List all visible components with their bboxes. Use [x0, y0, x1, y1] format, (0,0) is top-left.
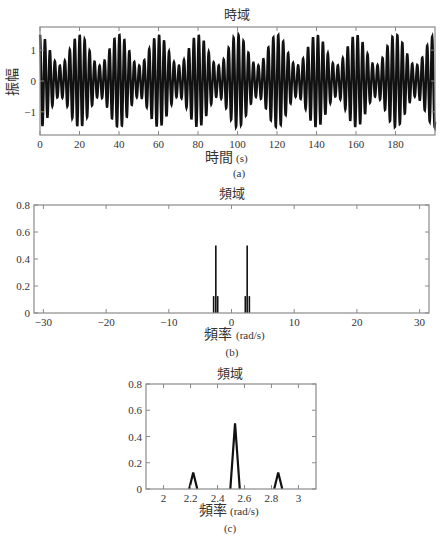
- y-tick-label: 0.6: [128, 404, 142, 416]
- y-tick-label: 0: [137, 483, 143, 495]
- figure: 時域 020406080100120140160180−101 振幅 時間 (s…: [0, 0, 446, 542]
- x-tick-label: 60: [153, 138, 165, 150]
- x-tick-label: 20: [74, 138, 86, 150]
- x-tick-label: 2: [161, 492, 167, 504]
- x-tick-label: −30: [35, 316, 53, 328]
- y-tick-label: 0.6: [16, 226, 30, 238]
- chart-frequency-domain: 頻域 −30−20−10010203000.20.40.60.8 頻率 (rad…: [16, 186, 429, 359]
- chart-c-xlabel: 頻率: [199, 502, 227, 518]
- chart-a-xlabel: 時間: [205, 149, 233, 165]
- chart-b-caption: (b): [226, 346, 239, 359]
- x-tick-label: 2.8: [265, 492, 279, 504]
- x-tick-label: 20: [351, 316, 363, 328]
- x-tick-label: 140: [308, 138, 325, 150]
- x-tick-label: 30: [414, 316, 426, 328]
- chart-time-domain: 時域 020406080100120140160180−101 振幅 時間 (s…: [4, 7, 435, 180]
- x-tick-label: 40: [114, 138, 126, 150]
- chart-c-plot-area: [189, 423, 282, 489]
- chart-b-axes: −30−20−10010203000.20.40.60.8: [16, 199, 429, 328]
- x-tick-label: −10: [160, 316, 178, 328]
- chart-a-xlabel-unit: (s): [236, 152, 248, 165]
- chart-a-caption: (a): [233, 167, 246, 180]
- y-tick-label: 1: [31, 44, 37, 56]
- chart-a-plot-area: [40, 35, 435, 127]
- chart-frequency-domain-zoom: 頻域 22.22.42.62.8300.20.40.60.8 頻率 (rad/s…: [128, 366, 316, 535]
- chart-c-axes: 22.22.42.62.8300.20.40.60.8: [128, 378, 316, 504]
- chart-b-plot-area: [214, 246, 250, 314]
- x-tick-label: 180: [387, 138, 404, 150]
- spectrum-peak: [230, 423, 239, 489]
- y-tick-label: 0.4: [128, 431, 142, 443]
- signal-line: [40, 35, 435, 127]
- x-tick-label: 2.6: [238, 492, 252, 504]
- chart-c-title: 頻域: [217, 366, 243, 381]
- y-tick-label: 0.4: [16, 253, 30, 265]
- y-tick-label: 0.2: [128, 457, 142, 469]
- y-tick-label: 0.2: [16, 280, 30, 292]
- chart-a-title: 時域: [224, 7, 250, 22]
- y-tick-label: 0.8: [128, 378, 142, 390]
- x-tick-label: 10: [289, 316, 301, 328]
- spectrum-peak: [274, 473, 282, 489]
- y-tick-label: 0: [31, 75, 37, 87]
- axes-frame: [34, 205, 429, 313]
- x-tick-label: 0: [37, 138, 43, 150]
- chart-b-xlabel-unit: (rad/s): [236, 329, 265, 342]
- x-tick-label: 3: [296, 492, 302, 504]
- y-tick-label: 0.8: [16, 199, 30, 211]
- chart-b-xlabel: 頻率: [204, 326, 232, 342]
- chart-c-xlabel-unit: (rad/s): [230, 505, 259, 518]
- x-tick-label: 2.2: [184, 492, 198, 504]
- y-tick-label: −1: [24, 106, 36, 118]
- y-tick-label: 0: [25, 307, 31, 319]
- x-tick-label: 80: [193, 138, 205, 150]
- chart-a-ylabel: 振幅: [4, 68, 20, 96]
- chart-c-caption: (c): [224, 522, 237, 535]
- x-tick-label: 160: [348, 138, 365, 150]
- x-tick-label: −20: [97, 316, 115, 328]
- chart-b-title: 頻域: [219, 186, 245, 201]
- x-tick-label: 120: [269, 138, 286, 150]
